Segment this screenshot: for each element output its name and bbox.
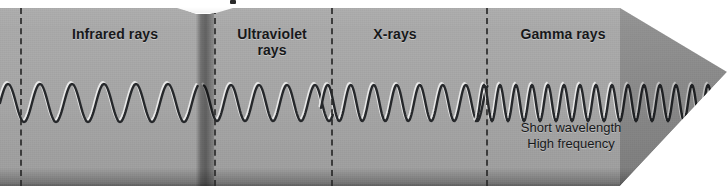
- spectrum-figure: Infrared rays Ultraviolet rays X-rays Ga…: [0, 0, 727, 191]
- caption-line-2: High frequency: [481, 136, 661, 152]
- section-label-ultraviolet: Ultraviolet rays: [202, 26, 342, 58]
- caption-line-1: Short wavelength: [481, 120, 661, 136]
- page-margin-bottom: [0, 186, 727, 191]
- section-divider: [486, 8, 488, 186]
- callout-text-fragment: [230, 0, 236, 4]
- section-label-gamma: Gamma rays: [493, 26, 633, 42]
- section-label-infrared: Infrared rays: [45, 26, 185, 42]
- spectrum-banner: Infrared rays Ultraviolet rays X-rays Ga…: [0, 0, 727, 191]
- section-divider: [20, 8, 22, 186]
- section-label-xrays: X-rays: [325, 26, 465, 42]
- page-margin-top: [0, 0, 727, 8]
- short-wavelength-caption: Short wavelength High frequency: [481, 120, 661, 152]
